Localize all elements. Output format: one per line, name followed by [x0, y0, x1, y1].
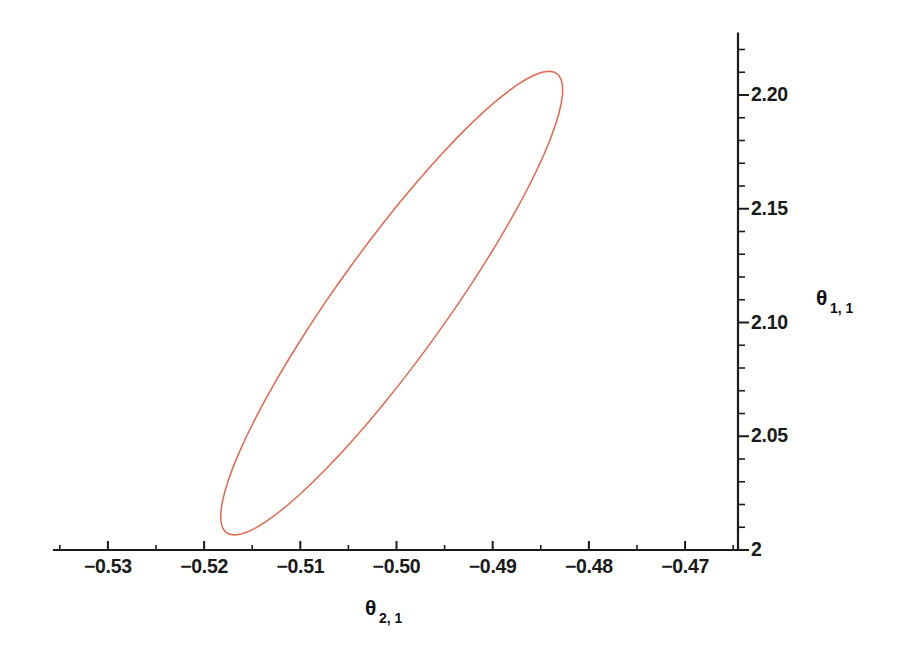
chart-svg: −0.53−0.52−0.51−0.50−0.49−0.48−0.47 22.0…: [0, 0, 900, 658]
y-tick-label: 2.15: [751, 197, 788, 219]
y-tick-label: 2.20: [751, 83, 788, 105]
y-tick-label: 2.10: [751, 311, 788, 333]
y-axis-title-theta: θ: [816, 286, 827, 309]
y-axis-title-subscript: 1, 1: [830, 300, 854, 316]
x-tick-label: −0.52: [180, 555, 228, 577]
x-tick-label: −0.53: [84, 555, 132, 577]
x-tick-label: −0.51: [276, 555, 324, 577]
x-tick-label: −0.48: [565, 555, 613, 577]
y-tick-label: 2: [751, 538, 762, 560]
x-tick-label: −0.50: [373, 555, 421, 577]
x-tick-label: −0.47: [661, 555, 709, 577]
y-tick-label: 2.05: [751, 424, 788, 446]
x-axis-title-subscript: 2, 1: [379, 610, 403, 626]
x-axis-title-theta: θ: [365, 596, 376, 619]
plot-canvas: −0.53−0.52−0.51−0.50−0.49−0.48−0.47 22.0…: [0, 0, 900, 658]
x-tick-label: −0.49: [469, 555, 517, 577]
